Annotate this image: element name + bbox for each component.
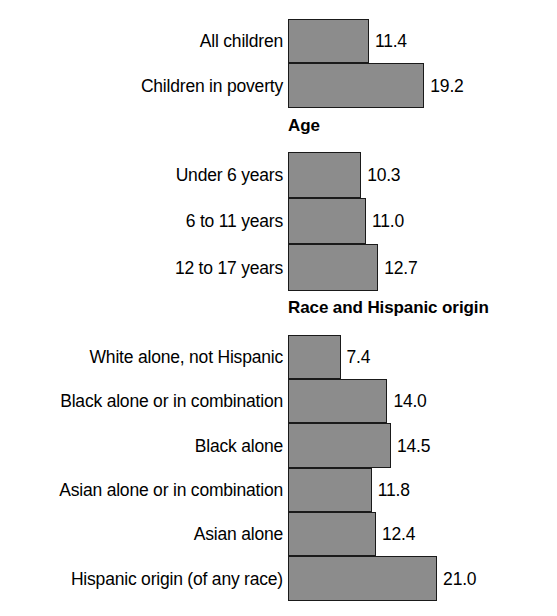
bar-category-label: Under 6 years [176,165,283,185]
group-heading: Race and Hispanic origin [288,299,489,317]
bar-value-label: 11.0 [372,211,404,231]
bar-row: All children11.4 [0,19,557,63]
bar-rect [288,512,376,556]
bar-rect [288,19,369,63]
bar-row: Children in poverty19.2 [0,63,557,108]
bar-chart: AgeRace and Hispanic originAll children1… [0,0,557,616]
bar-value-label: 21.0 [443,569,476,589]
bar-row: 6 to 11 years11.0 [0,198,557,244]
bar-rect [288,423,391,468]
bar-category-label: 6 to 11 years [186,211,283,231]
bar-value-label: 12.4 [382,524,415,544]
bar-row: Black alone14.5 [0,423,557,468]
bar-category-label: Asian alone or in combination [59,480,283,500]
group-heading: Age [288,117,320,135]
bar-rect [288,335,341,379]
bar-category-label: Children in poverty [141,76,283,96]
bar-row: Asian alone12.4 [0,512,557,556]
bar-value-label: 14.0 [393,391,426,411]
bar-value-label: 19.2 [430,76,463,96]
bar-row: Hispanic origin (of any race)21.0 [0,556,557,601]
bar-value-label: 11.4 [375,31,407,51]
bar-value-label: 12.7 [384,258,417,278]
bar-rect [288,63,424,108]
bar-value-label: 7.4 [347,347,371,367]
bar-category-label: Black alone [195,436,283,456]
bar-row: Asian alone or in combination11.8 [0,468,557,512]
bar-rect [288,152,361,198]
bar-rect [288,468,372,512]
bar-category-label: Asian alone [194,524,283,544]
bar-category-label: Hispanic origin (of any race) [71,569,283,589]
bar-rect [288,198,366,244]
bar-value-label: 10.3 [367,165,400,185]
bar-category-label: Black alone or in combination [60,391,283,411]
bar-rect [288,379,387,423]
bar-category-label: All children [200,31,283,51]
bar-rect [288,556,437,601]
bar-row: White alone, not Hispanic7.4 [0,335,557,379]
bar-category-label: White alone, not Hispanic [90,347,283,367]
bar-value-label: 14.5 [397,436,430,456]
bar-row: Under 6 years10.3 [0,152,557,198]
bar-row: 12 to 17 years12.7 [0,244,557,291]
bar-value-label: 11.8 [378,480,410,500]
bar-row: Black alone or in combination14.0 [0,379,557,423]
bar-category-label: 12 to 17 years [175,258,283,278]
bar-rect [288,244,378,291]
